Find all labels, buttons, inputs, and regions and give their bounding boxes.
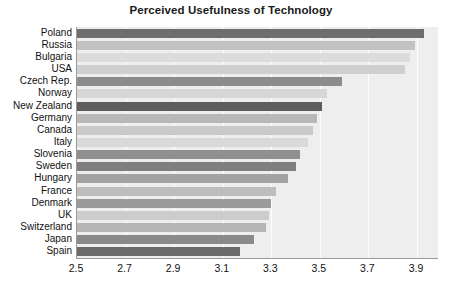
- bar-row[interactable]: [77, 112, 438, 124]
- y-axis-label-hungary: Hungary: [0, 172, 72, 183]
- bar-row[interactable]: [77, 136, 438, 148]
- x-tick-3-1: 3.1: [214, 262, 229, 274]
- y-axis-label-russia: Russia: [0, 39, 72, 50]
- bar-row[interactable]: [77, 27, 438, 39]
- bar[interactable]: [77, 247, 240, 256]
- bar[interactable]: [77, 102, 322, 111]
- x-tick-2-7: 2.7: [117, 262, 132, 274]
- bar-row[interactable]: [77, 222, 438, 234]
- y-axis-label-slovenia: Slovenia: [0, 148, 72, 159]
- bar-row[interactable]: [77, 173, 438, 185]
- bar-row[interactable]: [77, 209, 438, 221]
- y-axis-label-new-zealand: New Zealand: [0, 100, 72, 111]
- bar[interactable]: [77, 187, 276, 196]
- bar[interactable]: [77, 150, 300, 159]
- plot-area: [76, 27, 438, 259]
- bar[interactable]: [77, 162, 296, 171]
- y-axis-label-usa: USA: [0, 63, 72, 74]
- bar[interactable]: [77, 199, 271, 208]
- bar[interactable]: [77, 77, 342, 86]
- bar-row[interactable]: [77, 149, 438, 161]
- bar[interactable]: [77, 138, 308, 147]
- bar-row[interactable]: [77, 51, 438, 63]
- bar[interactable]: [77, 65, 405, 74]
- y-axis-category-labels: PolandRussiaBulgariaUSACzech Rep.NorwayN…: [0, 27, 72, 258]
- x-tick-3-5: 3.5: [312, 262, 327, 274]
- bar-row[interactable]: [77, 100, 438, 112]
- y-axis-label-poland: Poland: [0, 27, 72, 38]
- bar-row[interactable]: [77, 246, 438, 258]
- bar-row[interactable]: [77, 197, 438, 209]
- x-tick-2-9: 2.9: [166, 262, 181, 274]
- bar-row[interactable]: [77, 88, 438, 100]
- x-axis-tick-labels: 2.52.72.93.13.33.53.73.9: [0, 262, 462, 282]
- bar-row[interactable]: [77, 39, 438, 51]
- bar[interactable]: [77, 235, 254, 244]
- bar[interactable]: [77, 174, 288, 183]
- y-axis-label-sweden: Sweden: [0, 160, 72, 171]
- bar[interactable]: [77, 89, 327, 98]
- bar[interactable]: [77, 53, 410, 62]
- y-axis-label-norway: Norway: [0, 87, 72, 98]
- x-tick-2-5: 2.5: [69, 262, 84, 274]
- x-tick-3-9: 3.9: [409, 262, 424, 274]
- y-axis-label-switzerland: Switzerland: [0, 221, 72, 232]
- chart-title: Perceived Usefulness of Technology: [0, 4, 462, 16]
- bar-row[interactable]: [77, 76, 438, 88]
- x-tick-3-3: 3.3: [263, 262, 278, 274]
- bar[interactable]: [77, 29, 424, 38]
- bar-row[interactable]: [77, 63, 438, 75]
- y-axis-label-spain: Spain: [0, 245, 72, 256]
- bar-row[interactable]: [77, 161, 438, 173]
- y-axis-label-italy: Italy: [0, 136, 72, 147]
- bar[interactable]: [77, 223, 266, 232]
- y-axis-label-canada: Canada: [0, 124, 72, 135]
- y-axis-label-czech-rep: Czech Rep.: [0, 75, 72, 86]
- bar[interactable]: [77, 41, 415, 50]
- chart-container: Perceived Usefulness of Technology Polan…: [0, 0, 462, 296]
- y-axis-label-france: France: [0, 185, 72, 196]
- bar[interactable]: [77, 126, 313, 135]
- bar[interactable]: [77, 114, 317, 123]
- bar[interactable]: [77, 211, 269, 220]
- y-axis-label-denmark: Denmark: [0, 197, 72, 208]
- bar-row[interactable]: [77, 185, 438, 197]
- bar-row[interactable]: [77, 124, 438, 136]
- y-axis-label-bulgaria: Bulgaria: [0, 51, 72, 62]
- x-tick-3-7: 3.7: [360, 262, 375, 274]
- y-axis-label-japan: Japan: [0, 233, 72, 244]
- bar-row[interactable]: [77, 234, 438, 246]
- y-axis-label-germany: Germany: [0, 112, 72, 123]
- bar-series: [77, 27, 438, 258]
- y-axis-label-uk: UK: [0, 209, 72, 220]
